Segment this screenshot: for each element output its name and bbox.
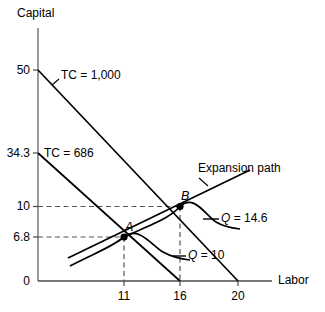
isocost-label-tc-1000: TC = 1,000 bbox=[61, 69, 121, 81]
x-tick-label-20: 20 bbox=[222, 290, 254, 302]
data-point-label-a: A bbox=[125, 221, 133, 234]
data-point-a-marker bbox=[120, 233, 127, 240]
isoquant-curve-q-10 bbox=[70, 233, 190, 266]
x-axis-title: Labor bbox=[278, 274, 309, 286]
isoquant-label-q-10-value: = 10 bbox=[197, 248, 224, 262]
y-tick-label-34point3: 34.3 bbox=[0, 147, 30, 159]
isoquant-label-q-10-symbol: Q bbox=[188, 248, 197, 262]
x-tick-label-11: 11 bbox=[108, 290, 140, 302]
y-axis-title: Capital bbox=[17, 7, 54, 19]
isocost-label-tc-686: TC = 686 bbox=[44, 147, 94, 159]
data-point-label-b: B bbox=[181, 190, 189, 203]
x-tick-label-16: 16 bbox=[164, 290, 196, 302]
isoquant-label-q-14point6: Q = 14.6 bbox=[221, 212, 267, 224]
isocost-line-tc-686 bbox=[38, 153, 180, 281]
y-tick-label-0: 0 bbox=[0, 275, 30, 287]
isoquant-label-q-10: Q = 10 bbox=[188, 249, 224, 261]
tc-1000-leader-line bbox=[52, 79, 59, 85]
y-tick-label-50: 50 bbox=[0, 64, 30, 76]
isoquant-label-q-14point6-symbol: Q bbox=[221, 211, 230, 225]
y-tick-label-10: 10 bbox=[0, 200, 30, 212]
y-tick-label-6point8: 6.8 bbox=[0, 231, 30, 243]
expansion-path-label: Expansion path bbox=[198, 162, 281, 174]
isoquant-isocost-chart: Capital Labor 50 34.3 10 6.8 0 11 16 20 … bbox=[0, 0, 325, 312]
expansion-path-leader-line bbox=[199, 178, 208, 186]
data-point-b-marker bbox=[176, 203, 183, 210]
isoquant-label-q-14point6-value: = 14.6 bbox=[230, 211, 267, 225]
